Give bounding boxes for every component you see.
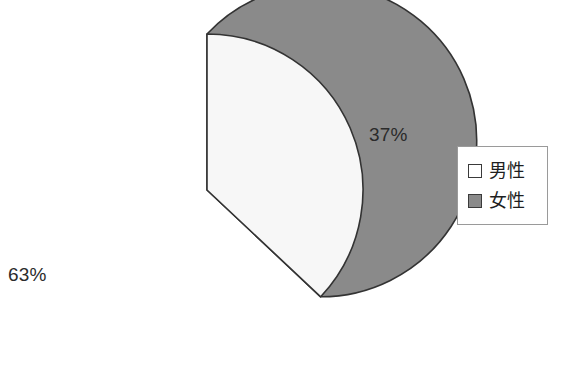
pie-label-male-percent: 37% (369, 125, 408, 144)
pie-chart-figure: 37% 63% 男性 女性 (0, 0, 562, 365)
legend-swatch-female-icon (468, 194, 482, 208)
legend-item-male[interactable]: 男性 (468, 156, 547, 186)
legend-label-male: 男性 (489, 162, 525, 180)
pie-label-female-percent: 63% (8, 265, 47, 284)
legend-swatch-male-icon (468, 164, 482, 178)
legend-item-female[interactable]: 女性 (468, 186, 547, 216)
legend-label-female: 女性 (489, 192, 525, 210)
legend: 男性 女性 (457, 146, 548, 225)
